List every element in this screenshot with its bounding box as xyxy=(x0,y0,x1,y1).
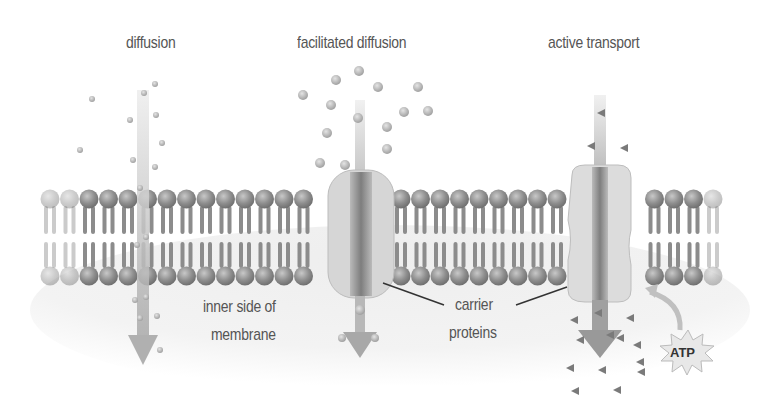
label-diffusion: diffusion xyxy=(126,33,175,53)
label-membrane: membrane xyxy=(211,325,276,345)
label-carrier: carrier xyxy=(455,295,493,315)
label-inner-side: inner side of xyxy=(203,297,276,317)
label-facilitated-diffusion: facilitated diffusion xyxy=(297,33,406,53)
label-active-transport: active transport xyxy=(548,33,639,53)
label-atp: ATP xyxy=(670,345,695,360)
membrane-transport-diagram xyxy=(0,0,764,415)
label-proteins: proteins xyxy=(449,323,497,343)
